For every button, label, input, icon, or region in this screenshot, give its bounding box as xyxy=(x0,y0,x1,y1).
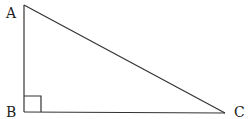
triangle-diagram: A B C xyxy=(0,0,248,119)
vertex-label-b: B xyxy=(6,104,16,119)
right-angle-marker xyxy=(24,96,41,112)
side-ac xyxy=(24,5,225,113)
vertex-label-a: A xyxy=(5,5,17,21)
side-bc xyxy=(24,112,225,113)
triangle-abc xyxy=(24,5,225,113)
vertex-label-c: C xyxy=(234,104,245,119)
